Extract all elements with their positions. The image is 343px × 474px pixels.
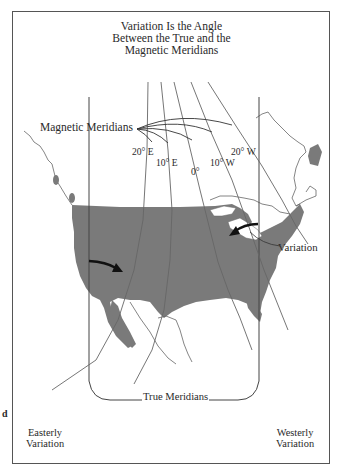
isogonic-label-0: 0° (191, 167, 200, 177)
easterly-line-2: Variation (26, 439, 64, 450)
map-diagram (0, 0, 343, 474)
variation-label: Variation (278, 242, 318, 253)
usa-landmass (72, 204, 304, 348)
pacific-coastline (24, 131, 72, 205)
island-2 (69, 193, 75, 203)
diagram-title: Variation Is the Angle Between the True … (0, 21, 343, 58)
isogonic-label-20w: 20° W (231, 147, 256, 157)
westerly-line-2: Variation (276, 439, 314, 450)
isogonic-label-10e: 10° E (156, 158, 178, 168)
isogonic-label-20e: 20° E (132, 147, 154, 157)
true-meridians-label: True Meridians (142, 391, 209, 402)
isogonic-label-10w: 10° W (210, 158, 235, 168)
stray-mark: d (2, 409, 8, 420)
magnetic-meridians-leaders (137, 118, 232, 143)
island-1 (53, 175, 59, 185)
magnetic-meridians-label: Magnetic Meridians (40, 121, 133, 133)
title-line: Magnetic Meridians (0, 45, 343, 57)
westerly-variation-label: Westerly Variation (276, 428, 314, 450)
newfoundland (308, 144, 322, 166)
easterly-variation-label: Easterly Variation (26, 428, 64, 450)
